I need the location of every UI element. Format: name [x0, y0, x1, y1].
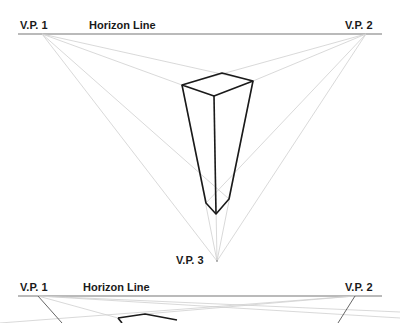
- box-top-face-bottom: [118, 314, 177, 320]
- box-top-face: [182, 73, 253, 96]
- vp1-label: V.P. 1: [20, 19, 48, 31]
- perspective-diagram: V.P. 1 Horizon Line V.P. 2 V.P. 3 V.P. 1…: [0, 0, 400, 323]
- vp2-label: V.P. 2: [345, 19, 373, 31]
- guide-line: [38, 296, 400, 312]
- box-edge: [118, 318, 122, 323]
- three-point-perspective-diagram: V.P. 1 Horizon Line V.P. 2 V.P. 3: [18, 19, 382, 266]
- two-point-perspective-diagram: V.P. 1 Horizon Line V.P. 2: [0, 281, 400, 323]
- guide-line: [42, 34, 182, 85]
- horizon-line-label-bottom: Horizon Line: [83, 281, 150, 293]
- vp2-label-bottom: V.P. 2: [345, 281, 373, 293]
- vp3-label: V.P. 3: [176, 254, 204, 266]
- box-front-edge: [214, 96, 216, 214]
- guide-line: [253, 34, 366, 81]
- horizon-line-label: Horizon Line: [89, 19, 156, 31]
- guide-line: [145, 296, 355, 314]
- vp3-point: [216, 260, 218, 262]
- box-outline: [182, 81, 253, 214]
- guide-line: [206, 34, 366, 203]
- guide-line: [38, 296, 400, 318]
- guide-line: [42, 34, 217, 261]
- vp1-label-bottom: V.P. 1: [20, 281, 48, 293]
